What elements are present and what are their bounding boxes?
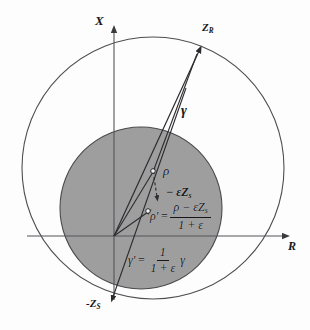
point-label-zs-negative: -ZS [86, 298, 100, 311]
gamma-prime-trailing: γ [180, 254, 185, 266]
figure-canvas: X R ZR -ZS γ ρ − εZs ρ' = ρ − εZs 1 + ε … [0, 0, 310, 330]
zr-subscript: R [209, 27, 214, 35]
numerator-eps-z: εZ [193, 200, 204, 214]
eps-zs-subscript: s [189, 191, 192, 200]
gamma-prime-lhs: γ' [128, 254, 135, 266]
axis-r-label: R [288, 240, 296, 252]
rho-prime-denominator: 1 + ε [175, 218, 206, 232]
rho-prime-lhs: ρ' [150, 210, 158, 222]
point-label-zr: ZR [202, 22, 214, 35]
gamma-prime-numerator: 1 [157, 246, 169, 261]
gamma-prime-equals: = [137, 254, 145, 266]
rho-prime-fraction: ρ − εZs 1 + ε [170, 201, 210, 232]
equation-gamma-prime: γ' = 1 1 + ε γ [128, 246, 185, 275]
diagram-svg [0, 0, 310, 330]
numerator-rho: ρ [173, 200, 179, 214]
vector-label-gamma: γ [181, 104, 187, 118]
point-marker-rho [151, 169, 156, 174]
rho-prime-numerator: ρ − εZs [170, 201, 210, 218]
axis-x-label: X [95, 14, 104, 27]
gamma-prime-denominator: 1 + ε [147, 261, 178, 275]
equation-rho-prime: ρ' = ρ − εZs 1 + ε [150, 201, 211, 232]
vector-label-epsilon-zs: − εZs [166, 186, 192, 200]
zr-base: Z [202, 21, 209, 33]
numerator-subscript: s [205, 206, 208, 215]
numerator-minus: − [182, 200, 190, 214]
rho-prime-equals: = [160, 210, 168, 222]
gamma-prime-fraction: 1 1 + ε [147, 246, 178, 275]
eps-zs-base: εZ [176, 185, 188, 199]
zs-neg-subscript: S [96, 303, 100, 311]
point-label-rho: ρ [163, 164, 169, 177]
eps-zs-sign: − [166, 185, 173, 199]
zs-neg-base: -Z [86, 297, 96, 309]
